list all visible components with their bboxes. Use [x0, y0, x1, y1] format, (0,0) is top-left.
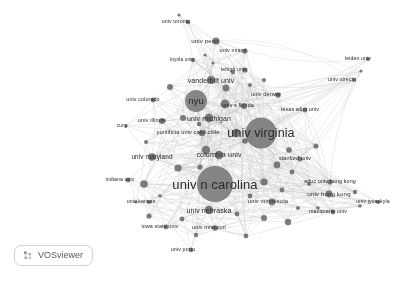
network-graph-canvas[interactable] — [0, 0, 410, 281]
vosviewer-logo-label: VOSviewer — [38, 251, 83, 260]
vosviewer-logo-icon — [22, 250, 33, 261]
vosviewer-network-map[interactable]: univ torontouniv pennuniv miamiloyola un… — [0, 0, 410, 281]
vosviewer-logo[interactable]: VOSviewer — [14, 245, 93, 266]
